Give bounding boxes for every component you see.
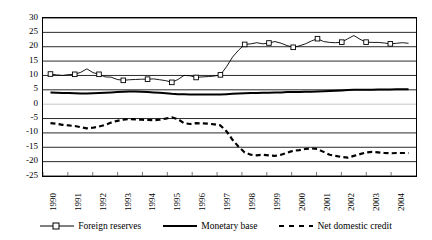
- y-axis-tick-label: -15: [2, 142, 38, 151]
- y-axis-tick-label: 15: [2, 56, 38, 65]
- series-marker: [291, 45, 296, 50]
- x-axis-tick-label: 1993: [124, 171, 133, 211]
- x-axis-tick-label: 2001: [323, 171, 332, 211]
- x-axis-tick-label: 1992: [99, 171, 108, 211]
- x-axis-tick-label: 1996: [198, 171, 207, 211]
- y-axis-tick-label: -20: [2, 156, 38, 165]
- plot-area: [42, 17, 417, 177]
- series-marker: [145, 77, 150, 82]
- y-axis-tick-label: -5: [2, 113, 38, 122]
- data-series-layer: [43, 18, 416, 176]
- series-marker: [388, 42, 393, 47]
- legend-item-net-domestic-credit: Net domestic credit: [279, 221, 391, 231]
- y-axis-tick-label: 25: [2, 27, 38, 36]
- y-axis-tick-label: 20: [2, 41, 38, 50]
- legend-swatch-line-marker-icon: [40, 221, 74, 231]
- x-axis-tick-label: 1994: [148, 171, 157, 211]
- x-axis-tick-label: 2004: [397, 171, 406, 211]
- legend-swatch-dashed-line-icon: [279, 221, 313, 231]
- series-marker: [97, 72, 102, 77]
- x-axis-tick-label: 2003: [372, 171, 381, 211]
- y-axis-tick-label: -10: [2, 127, 38, 136]
- x-axis-tick-labels: 1990199119921993199419951996199719981999…: [42, 179, 417, 219]
- legend-item-foreign-reserves: Foreign reserves: [40, 221, 141, 231]
- x-axis-tick-label: 1990: [49, 171, 58, 211]
- legend-label-foreign-reserves: Foreign reserves: [78, 221, 141, 231]
- series-marker: [339, 40, 344, 45]
- series-marker: [218, 73, 223, 78]
- y-axis-tick-label: 30: [2, 13, 38, 22]
- y-axis-tick-label: 0: [2, 99, 38, 108]
- series-marker: [242, 42, 247, 47]
- legend-swatch-thick-line-icon: [163, 221, 197, 231]
- series-marker: [315, 36, 320, 41]
- x-axis-tick-label: 2002: [347, 171, 356, 211]
- y-axis-tick-labels: 302520151050-5-10-15-20-25: [0, 0, 38, 200]
- series-marker: [121, 78, 126, 83]
- chart-container: 302520151050-5-10-15-20-25 1990199119921…: [0, 0, 432, 240]
- x-axis-tick-label: 1991: [74, 171, 83, 211]
- legend-item-monetary-base: Monetary base: [163, 221, 257, 231]
- series-marker: [170, 80, 175, 85]
- series-marker: [72, 72, 77, 77]
- x-axis-tick-label: 1997: [223, 171, 232, 211]
- y-axis-tick-label: 5: [2, 84, 38, 93]
- y-axis-tick-label: 10: [2, 70, 38, 79]
- series-marker: [194, 75, 199, 80]
- legend-label-net-domestic-credit: Net domestic credit: [317, 221, 391, 231]
- y-axis-tick-label: -25: [2, 171, 38, 180]
- series-line: [50, 117, 408, 157]
- series-marker: [364, 40, 369, 45]
- x-axis-tick-label: 1999: [273, 171, 282, 211]
- series-marker: [48, 72, 53, 77]
- x-axis-tick-label: 1995: [173, 171, 182, 211]
- chart-legend: Foreign reserves Monetary base Net domes…: [0, 215, 432, 237]
- series-line: [50, 89, 408, 94]
- legend-label-monetary-base: Monetary base: [201, 221, 257, 231]
- x-axis-tick-label: 1998: [248, 171, 257, 211]
- x-axis-tick-label: 2000: [298, 171, 307, 211]
- series-line: [50, 36, 408, 83]
- series-marker: [267, 41, 272, 46]
